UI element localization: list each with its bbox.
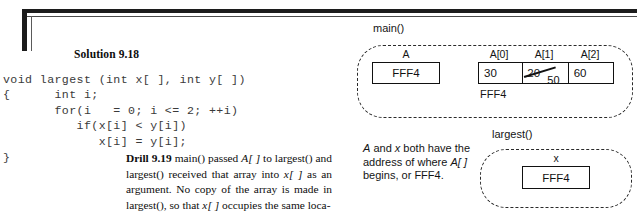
drill-text-4: occupies the same loca-: [219, 199, 330, 211]
explanation-text-4: where: [417, 156, 450, 168]
drill-italic-array-x-2: x[ ]: [202, 199, 219, 211]
page-frame-top-hairline: [25, 16, 637, 17]
array-cell-1-edit: 20 50: [527, 67, 540, 79]
variable-label-A: A: [386, 48, 426, 60]
explanation-text-5: begins,: [363, 169, 398, 181]
array-A-box: 30 20 50 60: [478, 62, 614, 84]
array-base-address-label: FFF4: [480, 88, 506, 100]
main-scope-label: main(): [373, 22, 404, 34]
array-cell-label-0: A[0]: [479, 48, 519, 60]
array-cell-label-1: A[1]: [524, 48, 564, 60]
largest-scope-label: largest(): [492, 128, 532, 140]
explanation-text-6: or FFF4.: [402, 169, 444, 181]
drill-italic-array-A: A[ ]: [241, 152, 260, 164]
variable-box-x: FFF4: [522, 166, 590, 189]
explanation-text-1: and: [370, 142, 394, 154]
variable-box-A: FFF4: [372, 62, 440, 84]
explanation-text-2: both have: [400, 142, 451, 154]
drill-italic-array-x-1: x[ ]: [284, 168, 303, 180]
array-cell-0: 30: [479, 63, 523, 83]
array-cell-label-2: A[2]: [570, 48, 610, 60]
drill-paragraph: Drill 9.19 main() passed A[ ] to largest…: [126, 151, 332, 213]
page-frame-top-rule: [22, 9, 637, 13]
array-cell-2: 60: [569, 63, 613, 83]
drill-text-1: main() passed: [172, 152, 242, 164]
array-cell-1-new-value: 50: [547, 74, 559, 86]
solution-heading: Solution 9.18: [74, 48, 139, 60]
address-explanation: A and x both have the address of where A…: [363, 142, 471, 183]
drill-label: Drill 9.19: [126, 152, 172, 164]
page-frame-left-hairline: [31, 16, 32, 51]
variable-label-x: x: [536, 152, 576, 164]
explanation-italic-array-A: A[ ]: [450, 156, 467, 168]
array-cell-1: 20 50: [523, 63, 568, 83]
page-frame-left-rule: [22, 9, 27, 51]
